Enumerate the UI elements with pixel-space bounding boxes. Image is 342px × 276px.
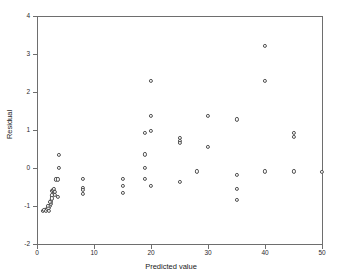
scatter-point bbox=[81, 186, 85, 190]
y-tick bbox=[33, 92, 37, 93]
scatter-point bbox=[234, 173, 238, 177]
scatter-point bbox=[120, 177, 124, 181]
scatter-point bbox=[291, 131, 295, 135]
x-tick-label: 30 bbox=[204, 250, 211, 257]
y-axis-title-wrap: Residual bbox=[2, 0, 16, 276]
scatter-point bbox=[55, 194, 59, 198]
scatter-point bbox=[41, 208, 45, 212]
scatter-point bbox=[54, 177, 58, 181]
data-layer-clip bbox=[0, 0, 342, 276]
y-axis-title: Residual bbox=[5, 97, 14, 153]
y-tick bbox=[33, 206, 37, 207]
scatter-point bbox=[143, 152, 147, 156]
scatter-point bbox=[55, 177, 59, 181]
scatter-point bbox=[53, 189, 57, 193]
y-tick bbox=[33, 16, 37, 17]
y-tick bbox=[33, 54, 37, 55]
scatter-point bbox=[49, 202, 53, 206]
scatter-point bbox=[291, 169, 295, 173]
scatter-point bbox=[149, 79, 153, 83]
scatter-point bbox=[149, 113, 153, 117]
y-axis-line bbox=[37, 16, 38, 245]
scatter-point bbox=[206, 113, 210, 117]
y-tick bbox=[33, 130, 37, 131]
scatter-point bbox=[51, 190, 55, 194]
scatter-point bbox=[120, 191, 124, 195]
x-axis-title: Predicted value bbox=[0, 262, 342, 271]
scatter-point bbox=[149, 184, 153, 188]
scatter-point bbox=[53, 193, 57, 197]
x-axis-line bbox=[37, 244, 323, 245]
scatter-point bbox=[234, 187, 238, 191]
scatter-point bbox=[42, 208, 46, 212]
scatter-point bbox=[206, 145, 210, 149]
scatter-point bbox=[50, 193, 54, 197]
scatter-point bbox=[291, 135, 295, 139]
scatter-point bbox=[49, 199, 53, 203]
scatter-point bbox=[177, 136, 181, 140]
scatter-point bbox=[149, 129, 153, 133]
scatter-point bbox=[81, 188, 85, 192]
scatter-point bbox=[57, 166, 61, 170]
scatter-point bbox=[177, 141, 181, 145]
scatter-point bbox=[234, 198, 238, 202]
scatter-point bbox=[51, 188, 55, 192]
scatter-point bbox=[81, 177, 85, 181]
scatter-point bbox=[234, 117, 238, 121]
residual-scatter-figure: -2-101234 01020304050 Residual Predicted… bbox=[0, 0, 342, 276]
x-tick-label: 10 bbox=[90, 250, 97, 257]
scatter-point bbox=[263, 169, 267, 173]
scatter-point bbox=[195, 169, 199, 173]
scatter-point bbox=[57, 153, 61, 157]
scatter-point bbox=[143, 131, 147, 135]
scatter-point bbox=[46, 204, 50, 208]
scatter-point bbox=[52, 187, 56, 191]
x-tick-label: 40 bbox=[261, 250, 268, 257]
scatter-point bbox=[177, 180, 181, 184]
scatter-point bbox=[46, 206, 50, 210]
scatter-point bbox=[50, 189, 54, 193]
scatter-point bbox=[143, 177, 147, 181]
scatter-point bbox=[47, 200, 51, 204]
plot-frame-right bbox=[322, 16, 323, 245]
scatter-point bbox=[50, 196, 54, 200]
scatter-point bbox=[48, 204, 52, 208]
scatter-point bbox=[263, 44, 267, 48]
scatter-point bbox=[81, 192, 85, 196]
y-tick bbox=[33, 168, 37, 169]
plot-frame-top bbox=[37, 16, 323, 17]
scatter-point bbox=[143, 166, 147, 170]
scatter-point bbox=[177, 139, 181, 143]
x-tick-label: 0 bbox=[35, 250, 39, 257]
scatter-point bbox=[120, 184, 124, 188]
scatter-point bbox=[47, 208, 51, 212]
scatter-point bbox=[263, 79, 267, 83]
scatter-point bbox=[45, 207, 49, 211]
x-tick-label: 50 bbox=[318, 250, 325, 257]
scatter-point bbox=[43, 209, 47, 213]
x-tick-label: 20 bbox=[147, 250, 154, 257]
